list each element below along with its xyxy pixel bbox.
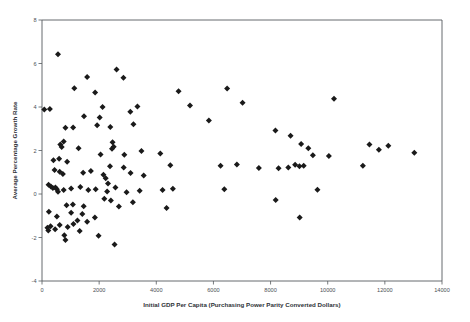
x-axis-ticks [42, 281, 442, 285]
data-point [71, 85, 77, 91]
data-point-markers [41, 51, 417, 247]
chart-figure: 02000400060008000100001200014000 -4-2024… [0, 0, 470, 322]
data-point [160, 187, 166, 193]
data-point [326, 153, 332, 159]
data-point [85, 187, 91, 193]
x-tick-label: 14000 [434, 287, 450, 293]
y-tick-label: 6 [33, 61, 36, 67]
data-point [57, 222, 63, 228]
data-point [107, 124, 113, 130]
data-point [62, 125, 68, 131]
data-point [112, 241, 118, 247]
data-point [297, 214, 303, 220]
data-point [54, 214, 60, 220]
data-point [70, 124, 76, 130]
data-point [305, 145, 311, 151]
data-point [164, 205, 170, 211]
data-point [134, 104, 140, 110]
data-point [176, 88, 182, 94]
data-point [107, 163, 113, 169]
y-tick-label: 8 [33, 17, 36, 23]
data-point [376, 147, 382, 153]
scatter-plot-svg: 02000400060008000100001200014000 -4-2024… [0, 0, 470, 322]
data-point [127, 109, 133, 115]
data-point [301, 163, 307, 169]
data-point [79, 211, 85, 217]
data-point [100, 104, 106, 110]
data-point [62, 237, 68, 243]
data-point [124, 189, 130, 195]
data-point [110, 139, 116, 145]
data-point [84, 219, 90, 225]
data-point [116, 204, 122, 210]
data-point [92, 214, 98, 220]
data-point [276, 165, 282, 171]
data-point [92, 89, 98, 95]
data-point [256, 165, 262, 171]
data-point [240, 100, 246, 106]
data-point [52, 167, 58, 173]
data-point [88, 168, 94, 174]
data-point [84, 74, 90, 80]
data-point [52, 226, 58, 232]
data-point [272, 127, 278, 133]
data-point [65, 224, 71, 230]
data-point [141, 173, 147, 179]
data-point [64, 159, 70, 165]
data-point [68, 210, 74, 216]
data-point [114, 67, 120, 73]
x-axis-title: Initial GDP Per Capita (Purchasing Power… [143, 301, 340, 308]
x-tick-label: 12000 [377, 287, 393, 293]
y-axis-tick-labels: -4-202468 [32, 17, 37, 284]
data-point [221, 186, 227, 192]
data-point [411, 150, 417, 156]
data-point [366, 141, 372, 147]
data-point [206, 117, 212, 123]
data-point [68, 186, 74, 192]
x-tick-label: 6000 [207, 287, 219, 293]
data-point [224, 86, 230, 92]
data-point [81, 113, 87, 119]
data-point [93, 186, 99, 192]
data-point [50, 157, 56, 163]
y-tick-label: -4 [32, 278, 37, 284]
x-tick-label: 2000 [93, 287, 105, 293]
data-point [96, 233, 102, 239]
data-point [121, 164, 127, 170]
y-axis-title: Average Percentage Growth Rate [11, 101, 18, 199]
data-point [97, 114, 103, 120]
data-point [310, 152, 316, 158]
data-point [76, 145, 82, 151]
data-point [121, 152, 127, 158]
data-point [70, 221, 76, 227]
data-point [64, 202, 70, 208]
data-point [104, 188, 110, 194]
data-point [360, 163, 366, 169]
data-point [385, 143, 391, 149]
data-point [46, 209, 52, 215]
data-point [120, 75, 126, 81]
data-point [285, 164, 291, 170]
data-point [273, 197, 279, 203]
y-tick-label: 2 [33, 148, 36, 154]
data-point [98, 151, 104, 157]
data-point [80, 170, 86, 176]
x-tick-label: 4000 [150, 287, 162, 293]
data-point [94, 122, 100, 128]
x-axis-tick-labels: 02000400060008000100001200014000 [40, 287, 449, 293]
data-point [77, 228, 83, 234]
data-point [170, 186, 176, 192]
y-axis-ticks [39, 20, 43, 281]
x-tick-label: 0 [40, 287, 43, 293]
data-point [105, 181, 111, 187]
data-point [288, 133, 294, 139]
x-tick-label: 8000 [264, 287, 276, 293]
data-point [101, 196, 107, 202]
data-point [218, 163, 224, 169]
data-point [112, 184, 118, 190]
data-point [298, 141, 304, 147]
x-tick-label: 10000 [320, 287, 336, 293]
data-point [74, 218, 80, 224]
data-point [137, 188, 143, 194]
data-point [331, 96, 337, 102]
